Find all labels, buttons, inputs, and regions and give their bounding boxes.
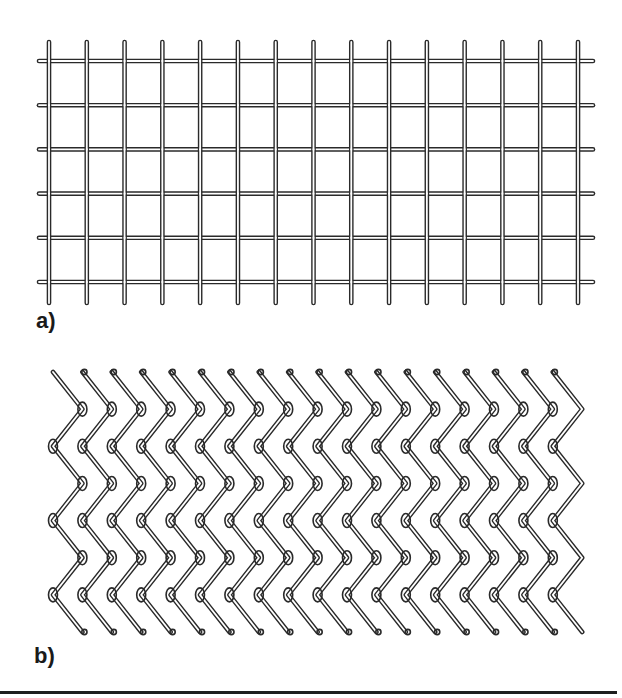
welded-wire-mesh-diagram [39, 42, 593, 303]
chain-link-mesh-diagram [49, 369, 583, 634]
panel-b-label: b) [34, 645, 55, 667]
panel-a-label: a) [36, 310, 56, 332]
mesh-figure [0, 0, 622, 698]
bottom-divider [0, 691, 617, 694]
